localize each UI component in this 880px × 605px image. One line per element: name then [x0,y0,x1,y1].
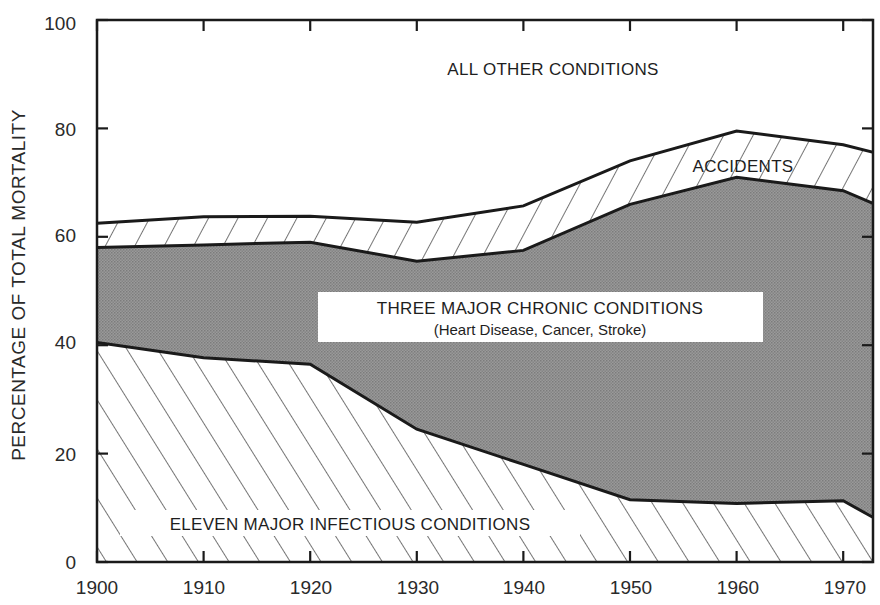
x-tick-1950: 1950 [610,577,652,598]
x-tick-1920: 1920 [290,577,332,598]
x-tick-1940: 1940 [503,577,545,598]
y-tick-60: 60 [55,225,76,246]
label-all-other-conditions: ALL OTHER CONDITIONS [447,60,658,79]
y-tick-100: 100 [44,13,76,34]
x-tick-1970: 1970 [824,577,866,598]
y-tick-20: 20 [55,444,76,465]
y-tick-80: 80 [55,119,76,140]
label-chronic-conditions: THREE MAJOR CHRONIC CONDITIONS [377,299,703,318]
label-chronic-subtitle: (Heart Disease, Cancer, Stroke) [434,321,647,338]
x-tick-1910: 1910 [183,577,225,598]
label-infectious-conditions: ELEVEN MAJOR INFECTIOUS CONDITIONS [170,515,531,534]
y-axis-title: PERCENTAGE OF TOTAL MORTALITY [8,109,29,461]
x-tick-1930: 1930 [397,577,439,598]
label-accidents: ACCIDENTS [693,157,794,176]
x-axis-tick-labels: 1900 1910 1920 1930 1940 1950 1960 1970 [76,577,866,598]
stacked-area-chart: 1900 1910 1920 1930 1940 1950 1960 1970 … [0,0,880,605]
x-tick-1960: 1960 [717,577,759,598]
y-axis-tick-labels: 0 20 40 60 80 100 [44,13,76,573]
y-tick-40: 40 [55,332,76,353]
y-tick-0: 0 [65,552,76,573]
x-tick-1900: 1900 [76,577,118,598]
